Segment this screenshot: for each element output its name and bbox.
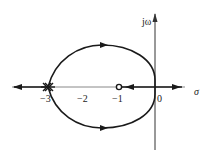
imag-axis-arrow-icon xyxy=(153,13,158,22)
locus-lower-arc xyxy=(48,87,155,128)
x-axis-label: σ xyxy=(194,86,200,97)
locus-upper-arc xyxy=(48,45,155,87)
zero-marker-icon xyxy=(116,84,121,89)
tick-label-neg1: −1 xyxy=(112,93,123,104)
lower-arc-arrow-icon xyxy=(100,125,108,131)
upper-arc-arrow-icon xyxy=(100,42,108,48)
tick-label-neg2: −2 xyxy=(77,93,88,104)
y-axis-label: jω xyxy=(141,16,152,27)
right-arrow-icon xyxy=(172,84,181,90)
root-locus-diagram: −3 −2 −1 0 σ jω xyxy=(0,0,210,163)
toward-zero-arrow-icon xyxy=(125,84,134,90)
tick-label-neg3: −3 xyxy=(40,93,51,104)
left-arrow-icon xyxy=(13,84,22,90)
tick-label-0: 0 xyxy=(157,93,162,104)
